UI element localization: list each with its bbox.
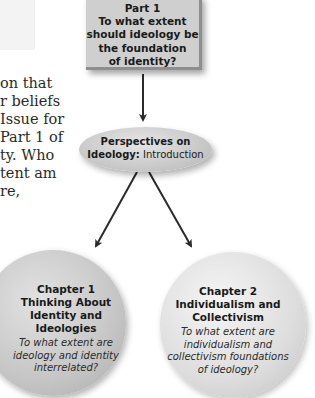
intro-line-2: Ideology: Introduction xyxy=(79,148,212,161)
chapter-question-line: interrelated? xyxy=(6,362,126,375)
body-text-line: on that xyxy=(0,74,90,92)
body-text-line: re, xyxy=(0,182,90,200)
perspectives-intro-ellipse: Perspectives on Ideology: Introduction xyxy=(79,127,212,172)
part-question-line: should ideology be xyxy=(86,28,199,41)
decorative-corner-box xyxy=(0,0,35,50)
part-1-box: Part 1 To what extent should ideology be… xyxy=(86,0,202,70)
chapter-1-circle: Chapter 1 Thinking About Identity and Id… xyxy=(0,250,126,396)
arrow-intro-to-chapter1 xyxy=(96,172,137,246)
chapter-question-line: collectivism foundations xyxy=(162,351,294,364)
chapter-title-line: Collectivism xyxy=(162,311,294,324)
body-text-line: Issue for xyxy=(0,110,90,128)
chapter-2-question: To what extent are individualism and col… xyxy=(162,326,294,376)
chapter-1-question: To what extent are ideology and identity… xyxy=(6,337,126,375)
part-question-line: the foundation xyxy=(86,42,199,55)
chapter-question-line: ideology and identity xyxy=(6,350,126,363)
body-text-excerpt: on that r beliefs Issue for Part 1 of ty… xyxy=(0,74,90,200)
intro-line-1: Perspectives on xyxy=(79,135,212,148)
chapter-1-title: Chapter 1 Thinking About Identity and Id… xyxy=(6,283,126,335)
chapter-title-line: Thinking About xyxy=(6,296,126,309)
body-text-line: r beliefs xyxy=(0,92,90,110)
part-question-line: To what extent xyxy=(86,15,199,28)
body-text-line: Part 1 of xyxy=(0,128,90,146)
chapter-question-line: of ideology? xyxy=(162,364,294,377)
chapter-title-line: Chapter 2 xyxy=(162,285,294,298)
chapter-2-circle: Chapter 2 Individualism and Collectivism… xyxy=(160,252,306,398)
chapter-title-line: Individualism and xyxy=(162,298,294,311)
chapter-question-line: To what extent are xyxy=(6,337,126,350)
chapter-question-line: To what extent are xyxy=(162,326,294,339)
part-question-line: of identity? xyxy=(86,55,199,68)
chapter-title-line: Identity and xyxy=(6,309,126,322)
body-text-line: tent am xyxy=(0,164,90,182)
chapter-2-title: Chapter 2 Individualism and Collectivism xyxy=(162,285,294,324)
part-label: Part 1 xyxy=(86,2,199,15)
chapter-question-line: individualism and xyxy=(162,339,294,352)
intro-line-2-regular: Introduction xyxy=(140,149,204,160)
chapter-title-line: Chapter 1 xyxy=(6,283,126,296)
chapter-title-line: Ideologies xyxy=(6,322,126,335)
intro-line-2-bold: Ideology: xyxy=(87,149,140,160)
arrow-intro-to-chapter2 xyxy=(149,172,191,246)
body-text-line: ty. Who xyxy=(0,146,90,164)
